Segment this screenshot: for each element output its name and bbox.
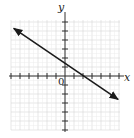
data-line bbox=[14, 28, 118, 99]
x-axis-label: x bbox=[124, 72, 130, 83]
axes bbox=[9, 12, 124, 132]
y-axis-label: y bbox=[58, 2, 64, 13]
coordinate-plane: y x 0 bbox=[0, 0, 134, 138]
graph bbox=[0, 0, 134, 138]
origin-label: 0 bbox=[58, 77, 64, 87]
